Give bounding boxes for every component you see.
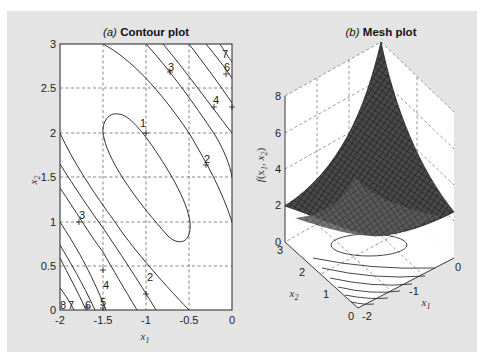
contour-label: 1 — [140, 117, 146, 129]
contour-label: 4 — [213, 94, 219, 106]
contour-x-ticks: -2 -1.5 -1 -0.5 0 — [55, 314, 235, 326]
contour-label: 2 — [204, 153, 210, 165]
svg-text:3: 3 — [277, 244, 283, 256]
contour-label: 2 — [147, 271, 153, 283]
mesh-z-axis-label: f(x1, x2) — [254, 148, 269, 183]
svg-text:-2: -2 — [55, 314, 65, 326]
svg-text:0.5: 0.5 — [41, 260, 56, 272]
svg-text:8: 8 — [275, 90, 281, 102]
contour-label: 3 — [79, 209, 85, 221]
svg-text:4: 4 — [275, 163, 281, 175]
svg-text:1: 1 — [323, 288, 329, 300]
contour-plot-title: (a) Contour plot — [103, 26, 189, 38]
svg-text:0: 0 — [348, 310, 354, 322]
contour-plot: (a) Contour plot — [27, 26, 235, 345]
mesh-plot: (b) Mesh plot — [254, 26, 461, 322]
figure-canvas: (a) Contour plot — [0, 0, 481, 362]
svg-text:-1.5: -1.5 — [94, 314, 113, 326]
mesh-z-ticks: 0 2 4 6 8 — [275, 90, 281, 248]
svg-text:2: 2 — [275, 199, 281, 211]
contour-label: 6 — [224, 61, 230, 73]
svg-text:0: 0 — [455, 261, 461, 273]
svg-text:3: 3 — [50, 38, 56, 50]
contour-label: 8 — [60, 299, 66, 311]
contour-y-axis-label: x2 — [27, 176, 42, 186]
contour-x-axis-label: x1 — [140, 330, 150, 345]
svg-text:2: 2 — [50, 127, 56, 139]
contour-label: 7 — [222, 48, 228, 60]
svg-text:-0.5: -0.5 — [180, 314, 199, 326]
mesh-x1-axis-label: x1 — [421, 296, 431, 311]
contour-label: 7 — [68, 299, 74, 311]
svg-text:6: 6 — [275, 127, 281, 139]
svg-text:2: 2 — [299, 266, 305, 278]
mesh-x2-axis-label: x2 — [289, 287, 299, 302]
svg-text:-2: -2 — [362, 310, 372, 322]
contour-label: 6 — [85, 299, 91, 311]
contour-label: 5 — [100, 296, 106, 308]
contour-label: 4 — [103, 279, 109, 291]
svg-text:1: 1 — [50, 216, 56, 228]
svg-text:-1: -1 — [409, 285, 419, 297]
svg-text:-1: -1 — [141, 314, 151, 326]
contour-label: 3 — [168, 61, 174, 73]
contour-y-ticks: 0 0.5 1 1.5 2 2.5 3 — [41, 38, 56, 316]
svg-text:2.5: 2.5 — [41, 82, 56, 94]
mesh-plot-title: (b) Mesh plot — [346, 26, 417, 38]
svg-text:1.5: 1.5 — [41, 171, 56, 183]
svg-text:0: 0 — [229, 314, 235, 326]
